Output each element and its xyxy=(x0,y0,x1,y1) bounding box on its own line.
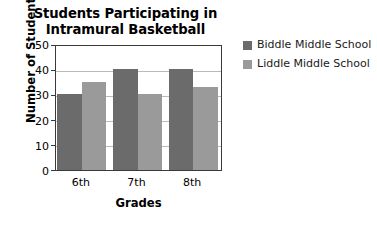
x-axis-title: Grades xyxy=(55,196,222,210)
y-tick-label: 30 xyxy=(35,89,49,102)
bars-layer xyxy=(56,46,221,170)
plot-area xyxy=(55,45,222,171)
chart-title-line-1: Students Participating in xyxy=(18,6,233,22)
bar xyxy=(57,94,82,170)
y-tick-mark xyxy=(51,145,55,146)
y-tick-mark xyxy=(51,170,55,171)
y-tick-label: 0 xyxy=(42,165,49,178)
chart-legend: Biddle Middle SchoolLiddle Middle School xyxy=(243,39,375,77)
legend-label: Liddle Middle School xyxy=(257,58,370,70)
y-tick-mark xyxy=(51,95,55,96)
y-tick-label: 50 xyxy=(35,39,49,52)
bar xyxy=(138,94,163,170)
legend-swatch xyxy=(243,41,252,50)
legend-item: Biddle Middle School xyxy=(243,39,375,51)
bar xyxy=(82,82,107,170)
y-tick-label: 40 xyxy=(35,64,49,77)
y-tick-mark xyxy=(51,70,55,71)
chart-title-line-2: Intramural Basketball xyxy=(18,22,233,38)
legend-label: Biddle Middle School xyxy=(257,39,371,51)
plot-region: 01020304050 6th7th8th xyxy=(55,45,222,171)
x-category-label: 8th xyxy=(183,176,201,189)
legend-swatch xyxy=(243,60,252,69)
y-tick-mark xyxy=(51,45,55,46)
x-category-label: 7th xyxy=(127,176,145,189)
x-category-label: 6th xyxy=(72,176,90,189)
y-tick-mark xyxy=(51,120,55,121)
chart-title: Students Participating in Intramural Bas… xyxy=(18,6,233,37)
bar xyxy=(193,87,218,170)
y-tick-label: 10 xyxy=(35,139,49,152)
legend-item: Liddle Middle School xyxy=(243,58,375,70)
bar xyxy=(169,69,194,170)
y-tick-label: 20 xyxy=(35,114,49,127)
bar-chart-figure: Students Participating in Intramural Bas… xyxy=(0,0,377,225)
bar xyxy=(113,69,138,170)
